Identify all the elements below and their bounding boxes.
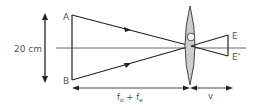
distance-arrow-fo-fe <box>72 86 190 91</box>
distance-label-fo-fe: fo + fe <box>117 92 143 103</box>
point-label-e: E <box>232 31 238 41</box>
image-rays <box>191 35 228 56</box>
ray-arrow-icon <box>124 63 131 68</box>
eye-icon <box>187 33 195 41</box>
height-dimension-arrow <box>42 13 48 83</box>
distance-arrow-v <box>190 86 233 91</box>
incoming-rays <box>72 15 191 80</box>
point-label-a: A <box>63 12 70 22</box>
point-label-b: B <box>63 76 69 86</box>
telescope-diagram: 20 cm A B E E' fo + fe v <box>0 0 256 107</box>
point-label-e-prime: E' <box>232 52 240 62</box>
distance-label-v: v <box>208 91 213 101</box>
height-label: 20 cm <box>14 44 42 54</box>
